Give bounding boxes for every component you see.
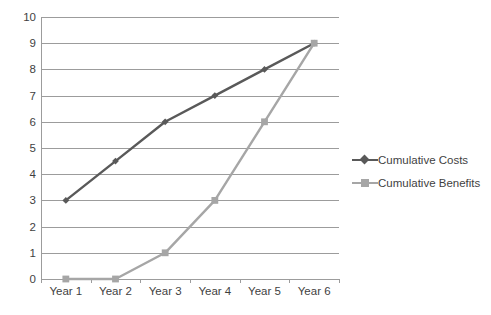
data-point-marker bbox=[211, 197, 218, 204]
series-line bbox=[66, 43, 314, 279]
legend: Cumulative Costs Cumulative Benefits bbox=[352, 148, 491, 194]
legend-item-cumulative-costs[interactable]: Cumulative Costs bbox=[352, 148, 491, 171]
data-point-marker bbox=[112, 276, 119, 283]
series-line bbox=[66, 43, 314, 200]
data-point-marker bbox=[162, 249, 169, 256]
legend-key-diamond-icon bbox=[352, 153, 378, 167]
data-point-marker bbox=[261, 118, 268, 125]
data-point-marker bbox=[62, 276, 69, 283]
line-chart: 012345678910 Year 1Year 2Year 3Year 4Yea… bbox=[0, 0, 491, 315]
data-point-marker bbox=[311, 40, 318, 47]
legend-label-cumulative-benefits: Cumulative Benefits bbox=[378, 177, 480, 189]
legend-item-cumulative-benefits[interactable]: Cumulative Benefits bbox=[352, 171, 491, 194]
legend-label-cumulative-costs: Cumulative Costs bbox=[378, 154, 468, 166]
legend-key-square-icon bbox=[352, 176, 378, 190]
